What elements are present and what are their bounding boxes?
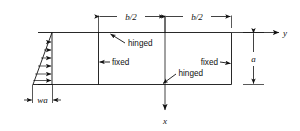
plate-load-diagram: b/2 b/2 — [0, 0, 300, 131]
label-a: a — [251, 54, 256, 64]
label-hinged-top: hinged — [128, 39, 153, 48]
label-hinged-bottom: hinged — [179, 69, 204, 78]
label-wa: wa — [37, 95, 48, 105]
leader-fixed-right — [220, 62, 231, 64]
figure-container: b/2 b/2 — [0, 0, 300, 131]
distributed-load-wedge — [33, 33, 52, 85]
leader-hinged-top — [111, 34, 126, 43]
label-axis-y: y — [282, 28, 287, 38]
label-b-half-left: b/2 — [125, 12, 137, 22]
label-fixed-left: fixed — [112, 58, 130, 67]
label-axis-x: x — [162, 116, 167, 126]
label-fixed-right: fixed — [201, 58, 219, 67]
label-b-half-right: b/2 — [191, 12, 203, 22]
